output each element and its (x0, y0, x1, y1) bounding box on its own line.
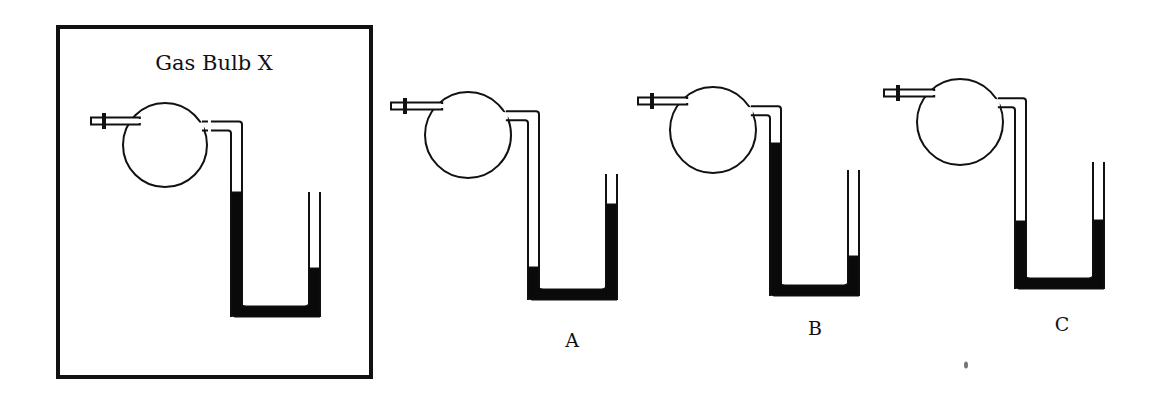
stopcock-icon (650, 93, 654, 109)
apparatus-b (638, 87, 859, 296)
reference-box-title: Gas Bulb X (155, 51, 273, 75)
open-valve-gap (208, 120, 211, 133)
mercury-column (528, 204, 617, 300)
label-a: A (564, 329, 579, 351)
gas-bulb-manometer-diagram: Gas Bulb X A B C (0, 0, 1154, 399)
inlet-tube (884, 90, 934, 97)
mercury-column (1015, 220, 1104, 289)
inlet-tube (638, 98, 687, 105)
apparatus-x (91, 103, 320, 317)
stopcock-icon (896, 85, 900, 101)
label-c: C (1055, 313, 1070, 335)
gas-bulb (123, 103, 207, 187)
speck (964, 362, 968, 369)
apparatus-c (884, 79, 1104, 289)
mercury-column (231, 192, 320, 317)
stopcock-icon (102, 113, 106, 129)
mercury-column (770, 143, 859, 296)
reference-box (58, 27, 371, 377)
label-b: B (808, 317, 822, 339)
stopcock-icon (403, 98, 407, 114)
inlet-tube (91, 118, 140, 125)
apparatus-a (391, 92, 617, 300)
inlet-tube (391, 103, 442, 110)
